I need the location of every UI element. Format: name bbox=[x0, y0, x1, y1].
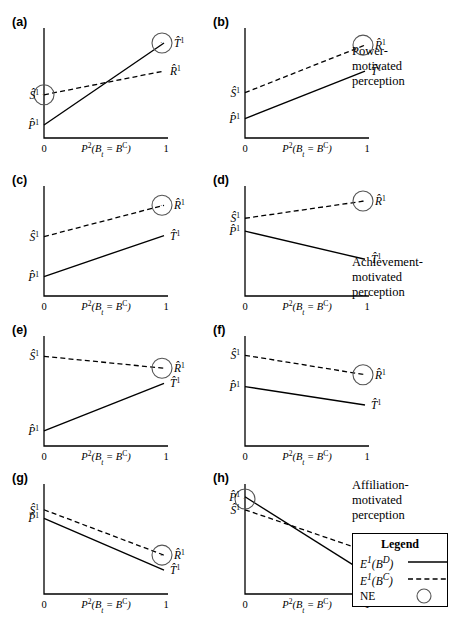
y-axis-label: P̂1 bbox=[228, 111, 240, 125]
legend-key: E1(BC) bbox=[360, 571, 408, 587]
y-axis-label: P̂1 bbox=[228, 379, 240, 393]
axes bbox=[245, 28, 369, 138]
ne-dot: · bbox=[160, 37, 163, 47]
y-axis-label: Ŝ1 bbox=[29, 87, 39, 101]
panel-plot: (e)·T̂1R̂1Ŝ1P̂101P2(Bt = BC) bbox=[10, 322, 210, 472]
panel-tag: (d) bbox=[213, 173, 229, 187]
series-line-solid bbox=[44, 383, 164, 431]
series-line-dashed bbox=[245, 45, 365, 93]
series-end-label: T̂1 bbox=[174, 35, 184, 49]
panel-b: (b)·T̂1R̂1Ŝ1P̂101P2(Bt = BC) bbox=[211, 14, 411, 164]
x-tick-min: 0 bbox=[242, 451, 247, 462]
x-tick-min: 0 bbox=[242, 143, 247, 154]
panel-tag: (a) bbox=[12, 15, 27, 29]
panel-plot: (a)··T̂1R̂1Ŝ1P̂101P2(Bt = BC) bbox=[10, 14, 210, 164]
series-line-solid bbox=[245, 387, 365, 405]
x-axis-title: P2(Bt = BC) bbox=[80, 299, 131, 317]
x-tick-min: 0 bbox=[41, 143, 46, 154]
series-line-dashed bbox=[44, 205, 164, 236]
x-axis-title: P2(Bt = BC) bbox=[281, 299, 332, 317]
y-axis-label: P̂1 bbox=[228, 224, 240, 238]
ne-dot: · bbox=[160, 363, 163, 373]
panel-f: (f)·T̂1R̂1Ŝ1P̂101P2(Bt = BC) bbox=[211, 322, 411, 472]
legend-key: NE bbox=[360, 590, 408, 602]
x-axis-title: P2(Bt = BC) bbox=[80, 449, 131, 467]
ne-dot: · bbox=[361, 369, 364, 379]
panel-g: (g)·T̂1R̂1Ŝ1P̂101P2(Bt = BC) bbox=[10, 470, 210, 620]
panel-plot: (d)·T̂1R̂1Ŝ1P̂101P2(Bt = BC) bbox=[211, 172, 411, 322]
x-axis-title: P2(Bt = BC) bbox=[281, 141, 332, 159]
x-tick-max: 1 bbox=[163, 599, 168, 610]
y-axis-label: Ŝ1 bbox=[29, 349, 39, 363]
series-end-label: T̂1 bbox=[170, 228, 180, 242]
y-axis-label: Ŝ1 bbox=[230, 502, 240, 516]
x-tick-max: 1 bbox=[364, 301, 369, 312]
ne-dot: · bbox=[361, 195, 364, 205]
axes bbox=[44, 484, 168, 594]
y-axis-label: P̂1 bbox=[27, 511, 39, 525]
x-tick-min: 0 bbox=[41, 451, 46, 462]
legend-row: E1(BD) bbox=[360, 553, 440, 570]
series-end-label: T̂1 bbox=[371, 397, 381, 411]
series-line-solid bbox=[44, 518, 164, 570]
series-end-label: R̂1 bbox=[173, 198, 185, 212]
series-line-dashed bbox=[44, 356, 164, 368]
power-motivated-caption: Power- motivated perception bbox=[352, 44, 405, 88]
panel-tag: (f) bbox=[213, 323, 226, 337]
series-line-solid bbox=[44, 236, 164, 277]
series-line-solid bbox=[245, 497, 365, 573]
series-line-dashed bbox=[245, 355, 365, 374]
y-axis-label: Ŝ1 bbox=[230, 85, 240, 99]
legend-title: Legend bbox=[353, 537, 447, 552]
x-tick-max: 1 bbox=[364, 451, 369, 462]
y-axis-label: Ŝ1 bbox=[29, 229, 39, 243]
x-axis-title: P2(Bt = BC) bbox=[281, 597, 332, 615]
panel-plot: (g)·T̂1R̂1Ŝ1P̂101P2(Bt = BC) bbox=[10, 470, 210, 620]
legend-row: NE bbox=[360, 587, 440, 604]
series-end-label: R̂1 bbox=[374, 193, 386, 207]
panel-tag: (c) bbox=[12, 173, 27, 187]
series-line-dashed bbox=[44, 71, 164, 95]
series-end-label: R̂1 bbox=[173, 548, 185, 562]
x-axis-title: P2(Bt = BC) bbox=[80, 597, 131, 615]
panel-e: (e)·T̂1R̂1Ŝ1P̂101P2(Bt = BC) bbox=[10, 322, 210, 472]
legend-sample-dashed-line bbox=[408, 575, 448, 583]
series-end-label: R̂1 bbox=[169, 64, 181, 78]
series-line-solid bbox=[44, 43, 164, 125]
panel-tag: (h) bbox=[213, 471, 229, 485]
ne-dot: · bbox=[243, 493, 246, 503]
panel-plot: (b)·T̂1R̂1Ŝ1P̂101P2(Bt = BC) bbox=[211, 14, 411, 164]
legend-row: E1(BC) bbox=[360, 570, 440, 587]
x-tick-min: 0 bbox=[242, 599, 247, 610]
series-line-solid bbox=[245, 231, 365, 259]
y-axis-label: P̂1 bbox=[228, 489, 240, 503]
panel-plot: (f)·T̂1R̂1Ŝ1P̂101P2(Bt = BC) bbox=[211, 322, 411, 472]
x-tick-max: 1 bbox=[364, 143, 369, 154]
series-end-label: T̂1 bbox=[170, 376, 180, 390]
series-end-label: T̂1 bbox=[170, 563, 180, 577]
achievement-motivated-caption: Achievement- motivated perception bbox=[352, 255, 423, 299]
x-tick-max: 1 bbox=[163, 451, 168, 462]
y-axis-label: P̂1 bbox=[27, 118, 39, 132]
x-tick-min: 0 bbox=[41, 599, 46, 610]
series-end-label: R̂1 bbox=[173, 361, 185, 375]
y-axis-label: P̂1 bbox=[27, 423, 39, 437]
legend-box: LegendE1(BD)E1(BC)NE bbox=[352, 533, 448, 607]
series-line-dashed bbox=[245, 201, 365, 218]
panel-tag: (b) bbox=[213, 15, 229, 29]
series-line-dashed bbox=[44, 510, 164, 555]
series-line-dashed bbox=[245, 510, 365, 551]
x-tick-max: 1 bbox=[163, 143, 168, 154]
x-axis-title: P2(Bt = BC) bbox=[80, 141, 131, 159]
panel-d: (d)·T̂1R̂1Ŝ1P̂101P2(Bt = BC) bbox=[211, 172, 411, 322]
x-tick-min: 0 bbox=[242, 301, 247, 312]
affiliation-motivated-caption: Affiliation- motivated perception bbox=[352, 478, 409, 522]
y-axis-label: Ŝ1 bbox=[230, 348, 240, 362]
axes bbox=[245, 484, 369, 594]
x-tick-min: 0 bbox=[41, 301, 46, 312]
y-axis-label: P̂1 bbox=[27, 269, 39, 283]
axes bbox=[44, 336, 168, 446]
axes bbox=[245, 336, 369, 446]
series-line-solid bbox=[245, 71, 365, 119]
panel-c: (c)·T̂1R̂1Ŝ1P̂101P2(Bt = BC) bbox=[10, 172, 210, 322]
